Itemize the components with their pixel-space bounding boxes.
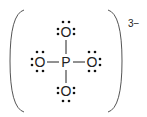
ion-charge: 3− — [128, 18, 140, 29]
oxygen-top: O — [61, 24, 72, 40]
phosphate-lewis-structure: 3− P O O O O — [0, 0, 147, 117]
right-bracket — [108, 10, 122, 112]
phosphorus-atom: P — [61, 54, 70, 70]
oxygen-right: O — [87, 54, 98, 70]
oxygen-bottom: O — [61, 83, 72, 99]
left-bracket — [10, 10, 24, 112]
oxygen-left: O — [35, 54, 46, 70]
